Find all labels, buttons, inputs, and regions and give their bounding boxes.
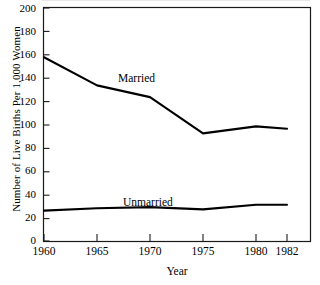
series-line-married [44,57,287,133]
y-axis-ticks [44,8,50,241]
chart-figure: Number of Live Births Per 1,000 Women Ye… [0,0,320,285]
plot-frame [44,8,311,242]
x-axis-ticks [44,234,287,242]
series-line-unmarried [44,205,287,211]
plot-svg [0,0,320,285]
